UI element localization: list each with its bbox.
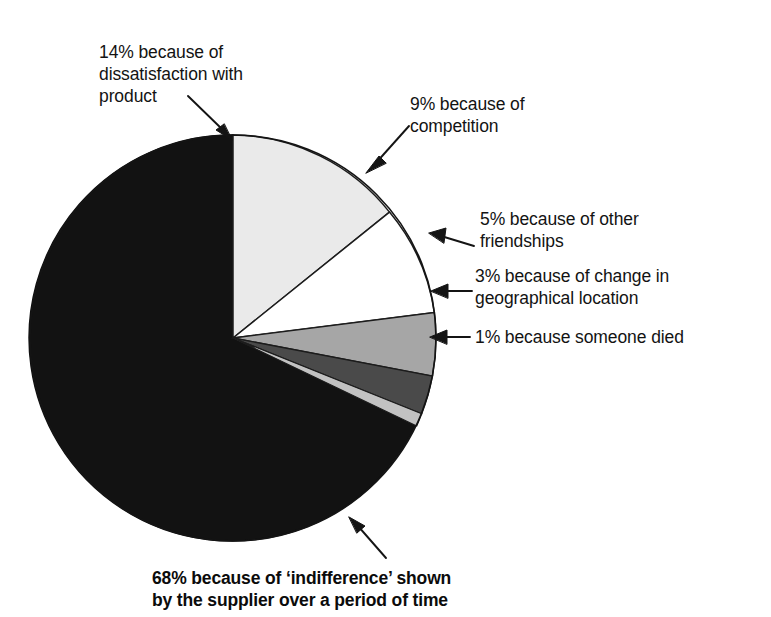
callout-label-dissatisfaction-14: 14% because of dissatisfaction with prod… <box>99 41 289 107</box>
leader-line-3 <box>431 284 472 298</box>
callout-label-indifference-68: 68% because of ‘indifference’ shown by t… <box>152 567 652 611</box>
callout-label-competition-9: 9% because of competition <box>410 93 590 137</box>
callout-label-other-friendships-5: 5% because of other friendships <box>480 208 720 252</box>
callout-label-geographical-location-3: 3% because of change in geographical loc… <box>475 265 735 309</box>
callout-label-someone-died-1: 1% because someone died <box>475 326 765 348</box>
pie-chart-figure: 14% because of dissatisfaction with prod… <box>0 0 771 617</box>
leader-line-9 <box>366 126 409 173</box>
leader-line-5 <box>429 228 474 246</box>
leader-line-68 <box>349 517 386 558</box>
